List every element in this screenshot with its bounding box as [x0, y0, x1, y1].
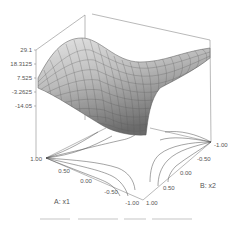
x-tick-label: 0.00 — [80, 178, 92, 184]
z-tick-label: 18.3125 — [10, 61, 32, 67]
x-tick-label: 1.00 — [30, 156, 42, 162]
y-tick-label: 0.00 — [180, 170, 192, 176]
y-tick-label: 1.00 — [146, 200, 158, 206]
z-tick-label: 7.525 — [17, 75, 33, 81]
surface-plot: 29.1 18.3125 7.525 -3.2625 -14.05 1.00 0… — [0, 0, 243, 225]
y-tick-label: -0.50 — [197, 156, 211, 162]
z-tick-label: -14.05 — [15, 103, 33, 109]
x-axis: 1.00 0.50 0.00 -0.50 -1.00 A: x1 — [30, 156, 139, 206]
z-tick-label: -3.2625 — [12, 89, 33, 95]
y-axis-label: B: x2 — [200, 182, 216, 189]
y-tick-label: 0.50 — [163, 185, 175, 191]
z-axis: 29.1 18.3125 7.525 -3.2625 -14.05 — [10, 47, 36, 109]
x-tick-label: -0.50 — [104, 189, 118, 195]
response-surface — [38, 38, 210, 135]
caption-blur — [40, 218, 192, 220]
z-tick-label: 29.1 — [20, 47, 32, 53]
y-axis: -1.00 -0.50 0.00 0.50 1.00 B: x2 — [146, 142, 228, 206]
y-tick-label: -1.00 — [214, 142, 228, 148]
x-tick-label: 0.50 — [58, 168, 70, 174]
x-axis-label: A: x1 — [54, 198, 70, 205]
floor-contours — [46, 131, 211, 196]
x-tick-label: -1.00 — [125, 200, 139, 206]
